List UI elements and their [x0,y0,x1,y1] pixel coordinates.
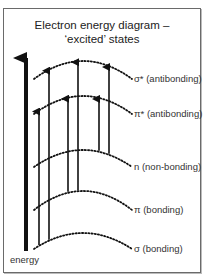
level-label-sigma: σ (bonding) [134,243,183,254]
energy-axis-label: energy [10,254,39,265]
energy-diagram [0,0,204,275]
level-label-n: n (non-bonding) [134,161,201,172]
level-label-pi: π (bonding) [134,204,183,215]
level-label-pi-star: π* (antibonding) [134,108,202,119]
level-label-sigma-star: σ* (antibonding) [134,73,202,84]
